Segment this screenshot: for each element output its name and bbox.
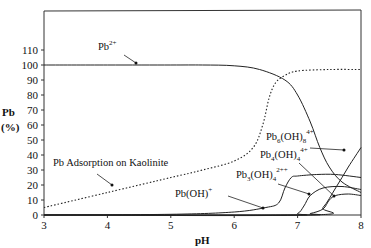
y-tick-label: 100 <box>22 59 39 71</box>
series-pb-adsorption-on-kaolinite <box>44 69 361 207</box>
speciation-chart: 0102030405060708090100110 345678 Pb (%) … <box>0 0 371 248</box>
y-tick-label: 40 <box>27 149 39 161</box>
x-axis-label: pH <box>195 234 210 246</box>
annotation-pb3oh4: Pb3(OH)42++ <box>236 166 311 196</box>
x-tick-label: 5 <box>168 219 174 231</box>
svg-text:Pb3(OH)42++: Pb3(OH)42++ <box>236 166 288 183</box>
x-tick-label: 3 <box>41 219 47 231</box>
y-tick-label: 0 <box>33 209 39 221</box>
x-axis-ticks: 345678 <box>41 215 364 231</box>
y-tick-label: 110 <box>22 44 39 56</box>
y-tick-label: 50 <box>27 134 39 146</box>
svg-text:Pb4(OH)44+: Pb4(OH)44+ <box>260 146 308 163</box>
y-tick-label: 90 <box>27 74 39 86</box>
svg-text:Pb Adsorption on Kaolinite: Pb Adsorption on Kaolinite <box>53 157 169 168</box>
y-axis-ticks: 0102030405060708090100110 <box>22 44 45 221</box>
annotation-pboh: Pb(OH)+ <box>175 186 265 210</box>
x-tick-label: 6 <box>231 219 237 231</box>
x-tick-label: 7 <box>295 219 301 231</box>
y-tick-label: 10 <box>27 194 39 206</box>
y-tick-label: 70 <box>27 104 39 116</box>
annotation-pb2: Pb2+ <box>98 39 138 65</box>
y-axis-label-line1: Pb <box>2 106 15 118</box>
y-tick-label: 60 <box>27 119 39 131</box>
y-tick-label: 20 <box>27 179 39 191</box>
plot-frame <box>44 10 361 215</box>
y-tick-label: 30 <box>27 164 39 176</box>
x-tick-label: 4 <box>105 219 111 231</box>
svg-text:Pb(OH)+: Pb(OH)+ <box>175 186 212 200</box>
y-axis-label-line2: (%) <box>1 121 20 134</box>
svg-text:Pb2+: Pb2+ <box>98 39 117 52</box>
y-tick-label: 80 <box>27 89 39 101</box>
x-tick-label: 8 <box>358 219 364 231</box>
svg-text:Pb6(OH)84+: Pb6(OH)84+ <box>266 128 314 145</box>
